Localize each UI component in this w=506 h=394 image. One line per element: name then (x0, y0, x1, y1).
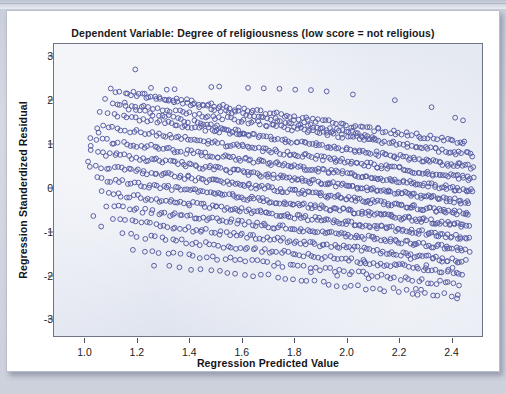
scatter-point (122, 100, 127, 105)
scatter-point (253, 246, 258, 251)
scatter-point (88, 136, 93, 141)
scatter-point (299, 278, 304, 283)
scatter-point (266, 272, 271, 277)
scatter-point (301, 263, 306, 268)
scatter-point (178, 149, 183, 154)
scatter-point (218, 268, 223, 273)
scatter-point (320, 143, 325, 148)
scatter-point (104, 204, 109, 209)
scatter-point (110, 124, 115, 129)
scatter-point (172, 87, 177, 92)
scatter-point (453, 115, 458, 120)
scatter-point (183, 134, 188, 139)
scatter-point (398, 253, 403, 258)
scatter-point (172, 174, 177, 179)
x-tick-mark (452, 338, 453, 343)
scatter-point (370, 286, 375, 291)
scatter-point (260, 250, 265, 255)
scatter-point (206, 102, 211, 107)
scatter-point (392, 98, 397, 103)
scatter-point (334, 121, 339, 126)
plot-area (53, 43, 483, 337)
scatter-point (99, 224, 104, 229)
scatter-point (258, 272, 263, 277)
scatter-point (233, 271, 238, 276)
scatter-point (293, 87, 298, 92)
scatter-point (142, 184, 147, 189)
scatter-point (356, 283, 361, 288)
scatter-point (151, 107, 156, 112)
scatter-point (398, 278, 403, 283)
scatter-point (101, 123, 106, 128)
scatter-point (131, 89, 136, 94)
scatter-point (217, 84, 222, 89)
scatter-point (156, 251, 161, 256)
scatter-point (172, 225, 177, 230)
scatter-point (359, 248, 364, 253)
scatter-point (139, 184, 144, 189)
scatter-point (330, 121, 335, 126)
scatter-point (450, 265, 455, 270)
scatter-point (251, 160, 256, 165)
scatter-point (424, 263, 429, 268)
scatter-point (382, 289, 387, 294)
scatter-point (110, 217, 115, 222)
scatter-point (112, 112, 117, 117)
figure-card: Dependent Variable: Degree of religiousn… (6, 10, 500, 372)
scatter-point (340, 148, 345, 153)
scatter-point (328, 266, 333, 271)
scatter-point (255, 258, 260, 263)
scatter-point (238, 246, 243, 251)
scatter-point (149, 211, 154, 216)
scatter-point (204, 255, 209, 260)
scatter-point (150, 249, 155, 254)
scatter-point (243, 259, 248, 264)
scatter-point (404, 287, 409, 292)
scatter-point (451, 281, 456, 286)
scatter-point (363, 287, 368, 292)
scatter-point (129, 231, 134, 236)
scatter-point (220, 140, 225, 145)
scatter-point (251, 274, 256, 279)
scatter-point (223, 257, 228, 262)
scatter-point (208, 163, 213, 168)
scatter-point (396, 290, 401, 295)
scatter-point (123, 218, 128, 223)
page-canvas: Dependent Variable: Degree of religiousn… (0, 0, 506, 394)
scatter-point (147, 220, 152, 225)
scatter-point (467, 223, 472, 228)
x-axis-title: Regression Predicted Value (53, 357, 483, 369)
x-tick-mark (189, 338, 190, 343)
scatter-point (130, 218, 135, 223)
scatter-point (238, 257, 243, 262)
scatter-point (213, 230, 218, 235)
scatter-point (318, 268, 323, 273)
scatter-point (394, 142, 399, 147)
scatter-point (312, 278, 317, 283)
scatter-point (184, 241, 189, 246)
scatter-point (228, 255, 233, 260)
x-tick-mark (347, 338, 348, 343)
scatter-point (210, 215, 215, 220)
scatter-points-layer (54, 44, 484, 338)
scatter-point (326, 282, 331, 287)
scatter-point (108, 86, 113, 91)
scatter-point (133, 219, 138, 224)
scatter-point (233, 258, 238, 263)
scatter-point (243, 273, 248, 278)
scatter-point (143, 249, 148, 254)
scatter-point (404, 130, 409, 135)
scatter-point (209, 85, 214, 90)
scatter-point (213, 192, 218, 197)
scatter-point (143, 206, 148, 211)
scatter-point (215, 257, 220, 262)
scatter-point (111, 192, 116, 197)
scatter-point (323, 266, 328, 271)
scatter-point (341, 269, 346, 274)
scatter-point (291, 277, 296, 282)
scatter-point (164, 87, 169, 92)
scatter-point (93, 163, 98, 168)
scatter-point (150, 208, 155, 213)
scatter-point (420, 228, 425, 233)
scatter-point (331, 180, 336, 185)
